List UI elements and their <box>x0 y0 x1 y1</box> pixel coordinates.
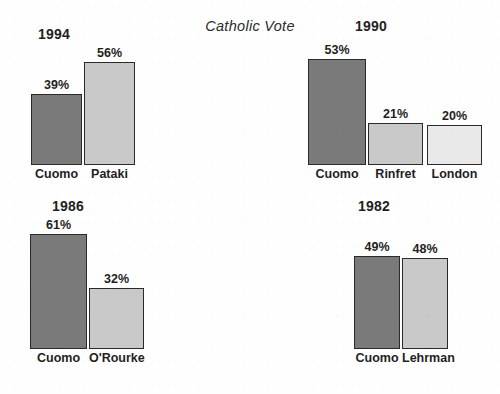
bar-label: Lehrman <box>402 351 448 365</box>
panel-1994: 1994 39% Cuomo 56% Pataki <box>18 26 148 171</box>
bar-group-cuomo: 39% Cuomo <box>31 53 82 165</box>
bar-group-pataki: 56% Pataki <box>84 53 135 165</box>
bar-value: 48% <box>402 242 448 256</box>
bar-lehrman[interactable] <box>402 258 448 349</box>
panel-1982: 1982 49% Cuomo 48% Lehrman <box>300 198 490 353</box>
bar-label: London <box>427 167 482 181</box>
bar-label: Rinfret <box>368 167 423 181</box>
panel-year-1994: 1994 <box>38 26 70 42</box>
bar-group-orourke: 32% O'Rourke <box>89 234 144 349</box>
bar-group-rinfret: 21% Rinfret <box>368 59 423 165</box>
bar-value: 49% <box>354 240 400 254</box>
bar-label: Cuomo <box>308 167 366 181</box>
plot-area-1982: 49% Cuomo 48% Lehrman <box>300 256 490 349</box>
bar-london[interactable] <box>427 125 482 165</box>
bar-label: Cuomo <box>30 351 87 365</box>
plot-area-1994: 39% Cuomo 56% Pataki <box>18 53 148 165</box>
plot-area-1986: 61% Cuomo 32% O'Rourke <box>18 234 168 349</box>
panel-year-1990: 1990 <box>355 18 387 34</box>
bar-value: 21% <box>368 107 423 121</box>
plot-area-1990: 53% Cuomo 21% Rinfret 20% London <box>300 59 490 165</box>
bar-value: 20% <box>427 109 482 123</box>
bar-label: O'Rourke <box>89 351 144 365</box>
bar-label: Pataki <box>84 167 135 181</box>
bar-group-cuomo: 61% Cuomo <box>30 234 87 349</box>
chart-figure: Catholic Vote 1994 39% Cuomo 56% Pataki … <box>0 0 500 394</box>
bar-value: 61% <box>30 218 87 232</box>
panel-year-1982: 1982 <box>358 198 390 214</box>
bar-label: Cuomo <box>354 351 400 365</box>
bar-value: 32% <box>89 272 144 286</box>
bar-rinfret[interactable] <box>368 123 423 165</box>
bar-group-london: 20% London <box>427 59 482 165</box>
bar-group-lehrman: 48% Lehrman <box>402 256 448 349</box>
bar-value: 53% <box>308 43 366 57</box>
bar-value: 56% <box>84 46 135 60</box>
panel-1990: 1990 53% Cuomo 21% Rinfret 20% London <box>300 18 490 173</box>
bar-cuomo[interactable] <box>354 256 400 349</box>
bar-value: 39% <box>31 78 82 92</box>
bar-label: Cuomo <box>31 167 82 181</box>
bar-pataki[interactable] <box>84 62 135 165</box>
bar-orourke[interactable] <box>89 288 144 349</box>
panel-year-1986: 1986 <box>52 198 84 214</box>
bar-cuomo[interactable] <box>30 234 87 349</box>
bar-group-cuomo: 49% Cuomo <box>354 256 400 349</box>
bar-cuomo[interactable] <box>308 59 366 165</box>
panel-1986: 1986 61% Cuomo 32% O'Rourke <box>18 198 168 353</box>
bar-group-cuomo: 53% Cuomo <box>308 59 366 165</box>
bar-cuomo[interactable] <box>31 94 82 165</box>
